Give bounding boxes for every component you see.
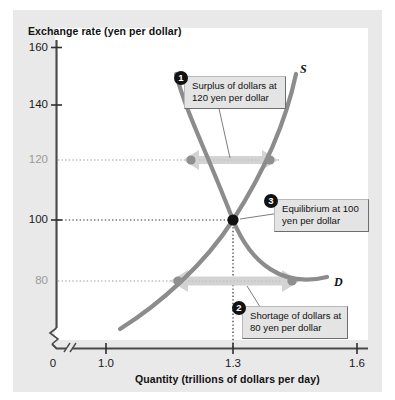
callout-surplus-line2: 120 yen per dollar [192,92,279,104]
marker-demand-at-80 [287,276,296,285]
x-axis-title: Quantity (trillions of dollars per day) [135,374,320,385]
x-tick-label-1.0: 1.0 [89,358,123,370]
marker-demand-at-120 [186,155,195,164]
callout-equilibrium-badge: 3 [264,194,278,208]
callout-surplus-line1: Surplus of dollars at [192,80,279,92]
callout-shortage-line2: 80 yen per dollar [250,322,341,334]
leader-1 [218,104,230,158]
x-tick-label-1.6: 1.6 [340,358,374,370]
marker-equilibrium [227,214,238,225]
callout-equilibrium[interactable]: Equilibrium at 100 yen per dollar [274,199,369,232]
callout-equilibrium-line2: yen per dollar [282,215,362,227]
y-tick-label-80: 80 [18,275,48,287]
callout-shortage[interactable]: Shortage of dollars at 80 yen per dollar [242,306,348,339]
y-axis-break [50,328,58,344]
origin-label: 0 [36,358,70,370]
callout-surplus[interactable]: Surplus of dollars at 120 yen per dollar [184,76,286,109]
demand-curve-label: D [334,276,343,288]
callout-shortage-badge: 2 [232,301,246,315]
y-tick-label-100: 100 [18,214,48,226]
y-tick-label-120: 120 [18,154,48,166]
marker-supply-at-120 [265,155,274,164]
y-tick-label-160: 160 [18,42,48,54]
callout-equilibrium-line1: Equilibrium at 100 [282,203,362,215]
y-tick-label-140: 140 [18,99,48,111]
axis-corner [52,344,66,349]
y-axis-title: Exchange rate (yen per dollar) [28,26,182,37]
callout-shortage-line1: Shortage of dollars at [250,310,341,322]
x-tick-label-1.3: 1.3 [216,358,250,370]
figure-container: Exchange rate (yen per dollar) Quantity … [0,0,395,400]
callout-surplus-badge: 1 [174,71,188,85]
supply-curve-label: S [300,63,307,75]
marker-supply-at-80 [173,276,182,285]
